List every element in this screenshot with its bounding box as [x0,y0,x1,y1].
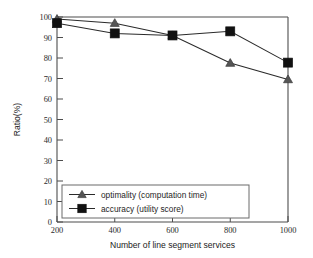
legend-item-accuracy: accuracy (utility score) [69,204,184,214]
line-chart: 0 10 20 30 40 50 60 70 80 90 100 200 400… [0,0,313,258]
x-axis-title: Number of line segment services [110,240,235,250]
y-axis-title: Ratio(%) [12,103,22,137]
y-tick-label: 80 [44,54,52,63]
y-tick-label: 60 [44,95,52,104]
x-axis-tick-labels: 200 400 600 800 1000 [51,226,297,235]
y-axis-tick-labels: 0 10 20 30 40 50 60 70 80 90 100 [39,13,52,227]
y-tick-label: 40 [44,136,52,145]
x-tick-label: 1000 [280,226,297,235]
square-marker-icon [78,204,86,212]
data-point-marker [110,29,119,38]
legend-label-optimality: optimality (computation time) [101,190,207,200]
y-tick-label: 10 [44,198,52,207]
y-tick-label: 20 [44,177,52,186]
legend-label-accuracy: accuracy (utility score) [101,204,184,214]
chart-legend: optimality (computation time) accuracy (… [62,185,249,218]
data-point-marker [226,27,235,36]
x-tick-label: 800 [224,226,237,235]
y-tick-label: 30 [44,157,52,166]
y-tick-label: 70 [44,75,52,84]
data-point-marker [53,19,62,28]
y-tick-label: 50 [44,116,52,125]
x-tick-label: 600 [166,226,179,235]
chart-figure: 0 10 20 30 40 50 60 70 80 90 100 200 400… [0,0,313,258]
data-point-marker [284,58,293,67]
x-tick-label: 200 [51,226,64,235]
x-tick-label: 400 [108,226,121,235]
data-point-marker [168,31,177,40]
y-tick-label: 90 [44,34,52,43]
y-tick-label: 100 [39,13,52,22]
